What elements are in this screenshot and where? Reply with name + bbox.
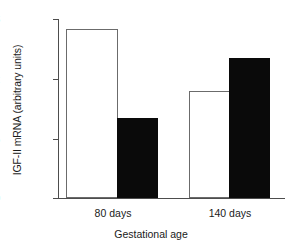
bar-140days-black	[229, 58, 270, 198]
bar-80days-black	[117, 118, 158, 198]
y-tick-mark-6	[53, 139, 58, 140]
bar-140days-white	[189, 91, 230, 198]
bar-80days-white	[66, 29, 118, 198]
x-tick-label-140days: 140 days	[180, 207, 280, 219]
y-tick-mark-12	[53, 79, 58, 80]
y-axis-title: IGF-II mRNA (arbitrary units)	[11, 15, 23, 205]
bar-chart-figure: IGF-II mRNA (arbitrary units) 18 12 6 0 …	[0, 0, 302, 248]
x-tick-label-80days: 80 days	[63, 207, 163, 219]
y-axis-line	[58, 19, 59, 199]
y-tick-mark-18	[53, 19, 58, 20]
plot-area	[58, 19, 285, 198]
x-axis-title: Gestational age	[0, 228, 302, 240]
x-axis-line	[58, 198, 285, 199]
y-tick-mark-0	[53, 198, 58, 199]
